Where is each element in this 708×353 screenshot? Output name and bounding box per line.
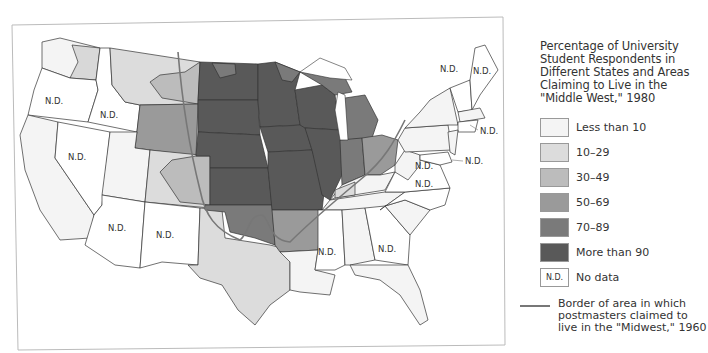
state-pennsylvania	[398, 125, 452, 152]
nd-label-virginia: N.D.	[415, 161, 433, 171]
legend-label: 10–29	[576, 146, 610, 159]
legend-label: Less than 10	[576, 121, 646, 134]
legend-title: Percentage of University Student Respond…	[540, 40, 690, 105]
legend-swatch	[540, 243, 569, 262]
nd-label-arizona: N.D.	[108, 223, 126, 233]
legend-item-50-69: 50–69	[540, 190, 690, 215]
nd-label-vermont: N.D.	[440, 64, 458, 74]
state-arkansas	[272, 210, 322, 252]
state-mississippi	[315, 210, 345, 270]
legend-item-70-89: 70–89	[540, 215, 690, 240]
nd-label-rhode-island: N.D.	[480, 126, 498, 136]
border-line-sample	[520, 305, 550, 307]
nd-label-nevada: N.D.	[68, 152, 86, 162]
state-kansas	[210, 168, 272, 205]
legend-item-more-than-90: More than 90	[540, 240, 690, 265]
map-legend: Percentage of University Student Respond…	[540, 40, 690, 290]
nd-label-oregon: N.D.	[45, 96, 63, 106]
legend-swatch	[540, 193, 569, 212]
legend-item-10-29: 10–29	[540, 140, 690, 165]
nd-label-maine: N.D.	[473, 66, 491, 76]
legend-label: 70–89	[576, 221, 610, 234]
legend-item-30-49: 30–49	[540, 165, 690, 190]
border-legend-label: Border of area in which postmasters clai…	[558, 298, 708, 334]
legend-swatch-nd: N.D.	[540, 268, 569, 287]
nd-label-new-mexico: N.D.	[156, 230, 174, 240]
legend-swatch	[540, 218, 569, 237]
legend-label: 50–69	[576, 196, 610, 209]
nd-label-idaho: N.D.	[100, 110, 118, 120]
legend-label: No data	[576, 271, 619, 284]
border-legend: Border of area in which postmasters clai…	[520, 298, 708, 334]
state-wyoming	[135, 104, 198, 156]
legend-swatch	[540, 143, 569, 162]
legend-label: 30–49	[576, 171, 610, 184]
state-connecticut-ri	[458, 120, 478, 132]
us-choropleth-map: N.D. N.D. N.D. N.D. N.D. N.D. N.D. N.D. …	[0, 0, 510, 353]
state-south-dakota	[198, 100, 260, 135]
legend-swatch	[540, 118, 569, 137]
nd-label-delaware: N.D.	[465, 156, 483, 166]
legend-item-no-data: N.D. No data	[540, 265, 690, 290]
nd-label-north-carolina: N.D.	[415, 179, 433, 189]
legend-label: More than 90	[576, 246, 649, 259]
nd-label-georgia: N.D.	[378, 244, 396, 254]
legend-item-less-than-10: Less than 10	[540, 115, 690, 140]
nd-label-mississippi: N.D.	[318, 247, 336, 257]
state-iowa	[260, 125, 312, 152]
legend-swatch	[540, 168, 569, 187]
